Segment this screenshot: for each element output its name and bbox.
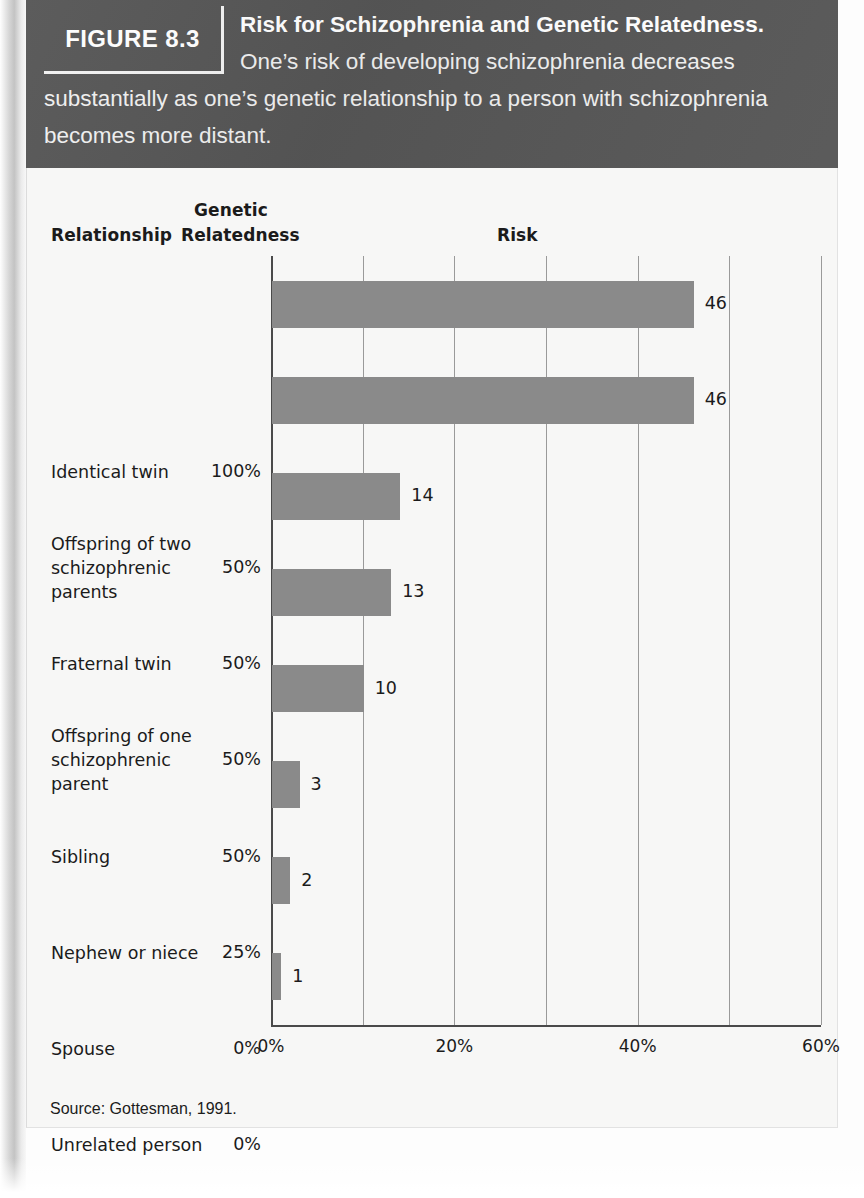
x-tick-label-0: 0%	[258, 1036, 285, 1056]
row-relatedness-3: 50%	[177, 653, 261, 673]
x-axis-line	[271, 1025, 821, 1027]
row-relatedness-5: 50%	[177, 846, 261, 866]
page-spine-shadow	[0, 0, 26, 1198]
bar-value-7: 2	[301, 870, 312, 890]
bar-4	[272, 569, 391, 616]
bar-6	[272, 761, 300, 808]
row-relatedness-7: 0%	[177, 1038, 261, 1058]
bar-2	[272, 377, 694, 424]
gridline-50	[729, 256, 730, 1025]
figure-caption-title: Risk for Schizophrenia and Genetic Relat…	[240, 12, 764, 37]
figure-number-label: FIGURE 8.3	[65, 25, 200, 53]
row-label-line: Offspring of two	[51, 532, 211, 556]
bar-5	[272, 665, 364, 712]
bar-value-6: 3	[311, 774, 322, 794]
bar-value-3: 14	[411, 485, 433, 505]
bar-value-1: 46	[705, 293, 727, 313]
gridline-60	[821, 256, 822, 1025]
row-relatedness-8: 0%	[177, 1134, 261, 1154]
page-bottom-fade	[0, 1158, 864, 1198]
x-tick-label-60: 60%	[802, 1036, 840, 1056]
row-label-line: Offspring of one	[51, 724, 211, 748]
column-header-risk: Risk	[497, 225, 538, 245]
column-header-genetic-line1: Genetic	[194, 200, 268, 220]
bar-value-2: 46	[705, 389, 727, 409]
bar-value-5: 10	[375, 678, 397, 698]
source-note: Source: Gottesman, 1991.	[50, 1100, 237, 1118]
row-relatedness-2: 50%	[177, 557, 261, 577]
row-label-line: parents	[51, 580, 211, 604]
bar-value-8: 1	[292, 966, 303, 986]
bar-1	[272, 281, 694, 328]
figure-number-badge: FIGURE 8.3	[44, 6, 224, 74]
bar-8	[272, 953, 281, 1000]
bar-7	[272, 857, 290, 904]
row-relatedness-4: 50%	[177, 749, 261, 769]
gridline-10	[363, 256, 364, 1025]
figure-page: Risk for Schizophrenia and Genetic Relat…	[0, 0, 864, 1198]
gridline-40	[638, 256, 639, 1025]
gridline-20	[454, 256, 455, 1025]
row-label-line: parent	[51, 772, 211, 796]
gridline-30	[546, 256, 547, 1025]
column-header-relationship: Relationship	[51, 225, 172, 245]
bar-3	[272, 473, 400, 520]
column-header-genetic-line2: Relatedness	[181, 225, 300, 245]
bar-value-4: 13	[402, 581, 424, 601]
row-relatedness-6: 25%	[177, 942, 261, 962]
chart-card: Relationship Genetic Relatedness Risk 0%…	[26, 168, 838, 1128]
x-tick-label-20: 20%	[435, 1036, 473, 1056]
bar-chart-plot-area: 0%20%40%60%4646141310321	[271, 256, 821, 1025]
x-tick-label-40: 40%	[619, 1036, 657, 1056]
y-axis-line	[271, 256, 273, 1025]
figure-caption-banner: Risk for Schizophrenia and Genetic Relat…	[26, 0, 838, 168]
row-relatedness-1: 100%	[177, 461, 261, 481]
